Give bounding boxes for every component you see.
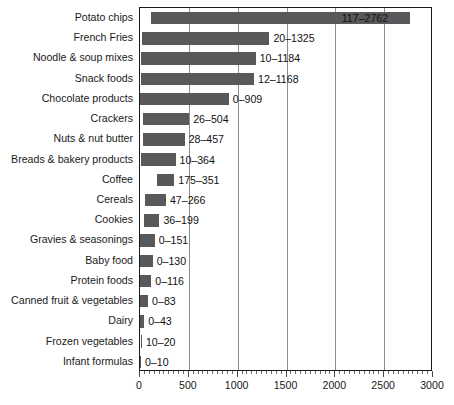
x-axis-tick-label: 1000 (225, 379, 249, 392)
x-axis-minor-tick (305, 371, 306, 374)
category-label: Potato chips (0, 7, 133, 27)
x-axis-tick (383, 371, 384, 377)
x-axis-minor-tick (295, 371, 296, 374)
x-axis-minor-tick (222, 371, 223, 374)
category-label: Protein foods (0, 270, 133, 290)
bar-chart: Potato chipsFrench FriesNoodle & soup mi… (0, 0, 454, 405)
x-axis-minor-tick (364, 371, 365, 374)
bar (140, 255, 153, 267)
category-label: Coffee (0, 169, 133, 189)
x-axis-tick-label: 3000 (420, 379, 444, 392)
bar (140, 234, 155, 246)
x-axis-minor-tick (168, 371, 169, 374)
x-axis-minor-tick (398, 371, 399, 374)
category-label: Breads & bakery products (0, 149, 133, 169)
x-axis-minor-tick (198, 371, 199, 374)
category-label: Cereals (0, 189, 133, 209)
x-axis-minor-tick (281, 371, 282, 374)
bar-value-label: 10–1184 (260, 48, 300, 68)
bar (140, 315, 144, 327)
x-axis-minor-tick (320, 371, 321, 374)
bar (144, 214, 160, 226)
bar-value-label: 0–43 (148, 311, 172, 331)
bar-value-label: 10–20 (146, 332, 175, 352)
x-axis-minor-tick (242, 371, 243, 374)
bar-value-label: 20–1325 (273, 28, 314, 48)
x-axis-minor-tick (290, 371, 291, 374)
x-axis-minor-tick (417, 371, 418, 374)
bar-value-label: 36–199 (163, 210, 198, 230)
category-label: Noodle & soup mixes (0, 47, 133, 67)
x-axis-minor-tick (408, 371, 409, 374)
x-axis-minor-tick (359, 371, 360, 374)
x-axis-minor-tick (246, 371, 247, 374)
bar-value-label: 0–909 (233, 89, 262, 109)
category-label: Baby food (0, 250, 133, 270)
bar (140, 93, 229, 105)
x-axis-minor-tick (159, 371, 160, 374)
bar (143, 113, 190, 125)
x-axis-minor-tick (154, 371, 155, 374)
gridline (335, 8, 336, 370)
x-axis-minor-tick (207, 371, 208, 374)
x-axis-minor-tick (388, 371, 389, 374)
bar (145, 194, 166, 206)
x-axis-tick (432, 371, 433, 377)
category-label: Gravies & seasonings (0, 229, 133, 249)
x-axis-minor-tick (266, 371, 267, 374)
x-axis-minor-tick (227, 371, 228, 374)
x-axis-minor-tick (144, 371, 145, 374)
bar-value-label: 0–116 (155, 271, 184, 291)
x-axis-minor-tick (300, 371, 301, 374)
x-axis-tick-label: 0 (136, 379, 142, 392)
bar (141, 73, 254, 85)
x-axis-tick-label: 1500 (274, 379, 298, 392)
x-axis-minor-tick (310, 371, 311, 374)
x-axis-minor-tick (349, 371, 350, 374)
category-label: Infant formulas (0, 351, 133, 371)
bar (140, 275, 151, 287)
x-axis-minor-tick (251, 371, 252, 374)
x-axis-minor-tick (412, 371, 413, 374)
x-axis-minor-tick (178, 371, 179, 374)
x-axis-minor-tick (422, 371, 423, 374)
x-axis-minor-tick (183, 371, 184, 374)
x-axis-tick (334, 371, 335, 377)
x-axis-minor-tick (261, 371, 262, 374)
bar (141, 153, 176, 165)
gridline (384, 8, 385, 370)
x-axis-minor-tick (256, 371, 257, 374)
bar-value-label: 0–83 (152, 291, 176, 311)
x-axis-minor-tick (369, 371, 370, 374)
bar (140, 356, 141, 368)
x-axis-minor-tick (339, 371, 340, 374)
bar-value-label: 28–457 (189, 129, 224, 149)
bar (141, 335, 142, 347)
x-axis-minor-tick (403, 371, 404, 374)
x-axis-minor-tick (271, 371, 272, 374)
category-label: Cookies (0, 209, 133, 229)
x-axis-minor-tick (232, 371, 233, 374)
bar-value-label: 117–2762 (342, 8, 388, 28)
x-axis-tick-label: 500 (179, 379, 197, 392)
x-axis-tick (139, 371, 140, 377)
x-axis-minor-tick (344, 371, 345, 374)
category-label: Nuts & nut butter (0, 128, 133, 148)
bar-value-label: 12–1168 (258, 69, 298, 89)
category-label: Canned fruit & vegetables (0, 290, 133, 310)
x-axis-minor-tick (325, 371, 326, 374)
x-axis-minor-tick (427, 371, 428, 374)
bar (157, 174, 174, 186)
x-axis-minor-tick (217, 371, 218, 374)
bar-value-label: 0–10 (145, 352, 169, 372)
plot-area: 117–276220–132510–118412–11680–90926–504… (139, 7, 432, 371)
x-axis-minor-tick (163, 371, 164, 374)
x-axis-minor-tick (393, 371, 394, 374)
x-axis-tick (188, 371, 189, 377)
bar (140, 295, 148, 307)
bar-value-label: 0–130 (157, 251, 186, 271)
category-label: Snack foods (0, 68, 133, 88)
x-axis-minor-tick (276, 371, 277, 374)
x-axis-tick (286, 371, 287, 377)
x-axis-tick (237, 371, 238, 377)
